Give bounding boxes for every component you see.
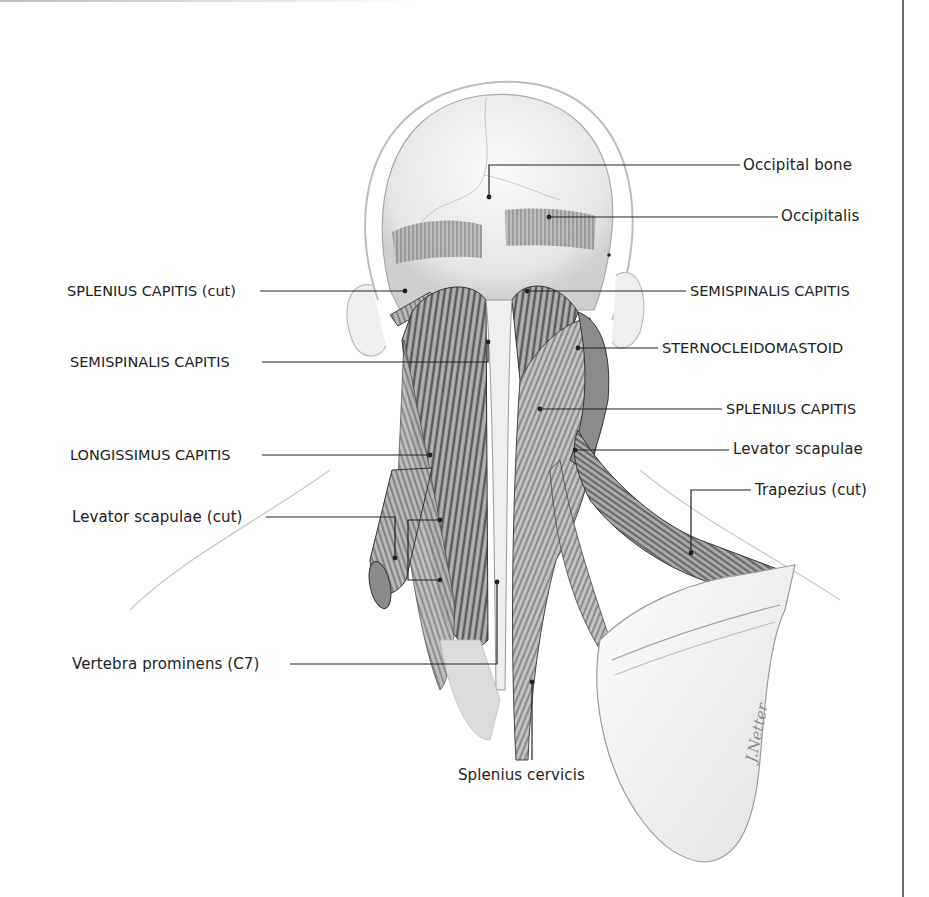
label-levator-scapulae: Levator scapulae — [733, 440, 863, 458]
label-occipital-bone: Occipital bone — [743, 156, 852, 174]
label-splenius-capitis-cut: SPLENIUS CAPITIS (cut) — [67, 282, 236, 300]
label-splenius-cervicis: Splenius cervicis — [458, 766, 585, 784]
label-vertebra-prominens: Vertebra prominens (C7) — [72, 655, 259, 673]
label-levator-scapulae-cut: Levator scapulae (cut) — [72, 508, 243, 526]
label-semispinalis-capitis-right: SEMISPINALIS CAPITIS — [690, 282, 850, 300]
anatomy-figure: SPLENIUS CAPITIS (cut) SEMISPINALIS CAPI… — [0, 0, 929, 897]
label-semispinalis-capitis-left: SEMISPINALIS CAPITIS — [70, 353, 230, 371]
label-occipitalis: Occipitalis — [781, 207, 859, 225]
label-splenius-capitis: SPLENIUS CAPITIS — [726, 400, 856, 418]
label-trapezius-cut: Trapezius (cut) — [755, 481, 867, 499]
label-sternocleidomastoid: STERNOCLEIDOMASTOID — [662, 339, 843, 357]
label-longissimus-capitis: LONGISSIMUS CAPITIS — [70, 446, 230, 464]
